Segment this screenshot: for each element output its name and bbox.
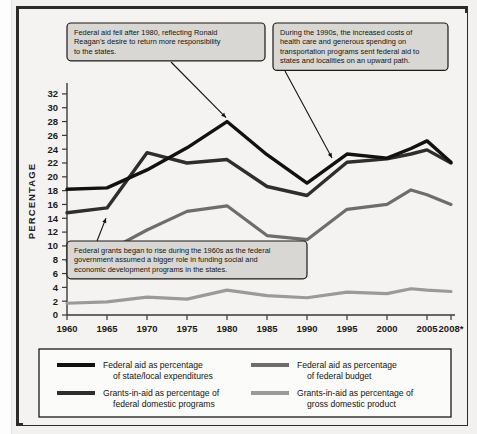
y-tick-label: 0	[53, 309, 58, 320]
callout-line: government assumed a bigger role in fund…	[74, 255, 258, 264]
x-tick-label: 1990	[296, 323, 317, 334]
x-tick-label: 1995	[336, 323, 358, 334]
chart-inner: 0246810121416182022242628303219601965197…	[19, 9, 465, 423]
y-tick-label: 4	[53, 282, 59, 293]
legend-label-line2: of federal budget	[307, 371, 372, 381]
line-chart: 0246810121416182022242628303219601965197…	[19, 9, 471, 429]
y-tick-label: 30	[47, 102, 58, 113]
callout-line: states and localities on an upward path.	[280, 56, 410, 65]
callout-line: Federal grants began to rise during the …	[74, 246, 271, 255]
legend: Federal aid as percentageof state/local …	[39, 349, 451, 417]
legend-label-line1: Federal aid as percentage	[103, 360, 203, 370]
y-tick-label: 20	[47, 171, 58, 182]
callout-line: health care and generous spending on	[280, 37, 406, 46]
x-tick-label: 1980	[216, 323, 237, 334]
y-tick-label: 6	[53, 268, 58, 279]
y-tick-label: 16	[47, 199, 58, 210]
y-tick-label: 18	[47, 185, 58, 196]
x-tick-label: 1985	[256, 323, 278, 334]
x-tick-label: 2000	[376, 323, 397, 334]
x-tick-label: 1960	[56, 323, 77, 334]
y-tick-label: 10	[47, 240, 58, 251]
y-tick-label: 24	[47, 144, 58, 155]
x-tick-label: 1975	[176, 323, 198, 334]
x-tick-label: 1965	[96, 323, 118, 334]
y-axis-title: PERCENTAGE	[26, 163, 37, 239]
figure-container: 0246810121416182022242628303219601965197…	[0, 0, 477, 434]
y-tick-label: 22	[47, 157, 58, 168]
y-tick-label: 2	[53, 296, 58, 307]
legend-label-line1: Grants-in-aid as percentage of	[103, 388, 220, 398]
legend-label-line2: of state/local expenditures	[113, 371, 213, 381]
y-tick-label: 12	[47, 226, 58, 237]
legend-label-line1: Grants-in-aid as percentage of	[297, 388, 414, 398]
y-tick-label: 8	[53, 254, 58, 265]
x-tick-label: 2008*	[439, 323, 464, 334]
legend-label-line1: Federal aid as percentage	[297, 360, 397, 370]
callout-line: During the 1990s, the increased costs of	[280, 28, 413, 37]
legend-label-line2: gross domestic product	[307, 399, 396, 409]
callout-line: Reagan's desire to return more responsib…	[74, 37, 221, 46]
callout-line: transportation programs sent federal aid…	[280, 47, 419, 56]
y-tick-label: 14	[47, 213, 58, 224]
x-tick-label: 2005	[416, 323, 438, 334]
page-margin-strip	[0, 0, 12, 434]
callout-line: economic development programs in the sta…	[74, 265, 227, 274]
y-tick-label: 28	[47, 116, 58, 127]
y-tick-label: 32	[47, 88, 58, 99]
callout-line: to the states.	[74, 47, 116, 56]
y-tick-label: 26	[47, 130, 58, 141]
callout-line: Federal aid fell after 1980, reflecting …	[74, 28, 217, 37]
x-tick-label: 1970	[136, 323, 157, 334]
chart-frame: 0246810121416182022242628303219601965197…	[16, 6, 468, 426]
legend-label-line2: federal domestic programs	[113, 399, 215, 409]
